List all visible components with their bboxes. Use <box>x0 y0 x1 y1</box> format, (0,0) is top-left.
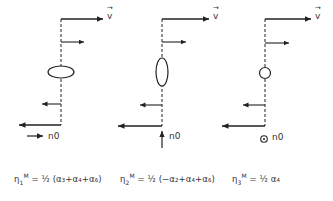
v-vector-mark-2: → <box>213 4 219 12</box>
n-label-2: n0 <box>169 131 180 141</box>
n-label-3: n0 <box>272 132 283 142</box>
equation-2: η2M = ½ (−α₂+α₄+α₆) <box>120 172 215 186</box>
diagram-canvas <box>0 0 333 201</box>
equation-3: η3M = ½ α₄ <box>232 172 280 186</box>
panel-3 <box>222 19 311 142</box>
v-label-2: v <box>213 11 218 21</box>
equation-1: η1M = ½ (α₃+α₄+α₆) <box>14 172 102 186</box>
circle-icon <box>260 68 271 79</box>
n-label-1: n0 <box>48 131 59 141</box>
horizontal-ellipse-icon <box>48 66 74 78</box>
panel-2 <box>118 19 209 148</box>
v-vector-mark-3: → <box>315 4 321 12</box>
panel-1 <box>19 19 103 136</box>
v-label-1: v <box>107 11 112 21</box>
v-vector-mark-1: → <box>107 4 113 12</box>
v-label-3: v <box>315 11 320 21</box>
vertical-ellipse-icon <box>156 58 168 86</box>
